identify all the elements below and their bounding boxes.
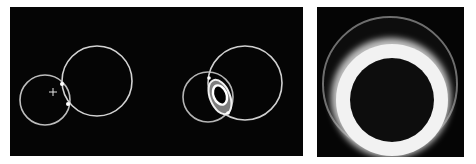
- ring-image: [323, 17, 457, 158]
- overlapping-pair: [183, 46, 282, 122]
- crosshair-icon: [49, 88, 57, 96]
- touching-pair: [20, 46, 132, 125]
- ring-inner-hole: [350, 58, 434, 142]
- contact-point: [66, 102, 70, 106]
- contact-point: [60, 82, 64, 86]
- large-circle: [62, 46, 132, 116]
- figure-canvas: [0, 0, 476, 164]
